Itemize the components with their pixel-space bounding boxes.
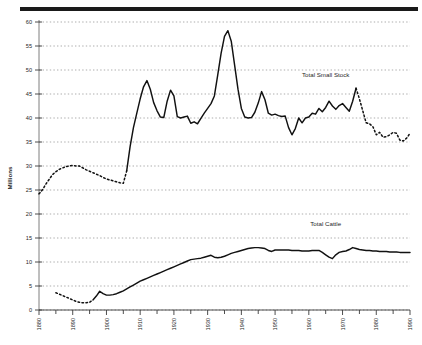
y-tick-label: 25 (26, 187, 32, 193)
x-tick-label: 1900 (104, 318, 110, 330)
y-tick-label: 50 (26, 67, 32, 73)
y-tick-labels: 051015202530354045505560 (26, 19, 32, 313)
series-annotation: Total Small Stock (302, 71, 350, 78)
x-tick-label: 1960 (306, 318, 312, 330)
y-tick-label: 20 (26, 211, 32, 217)
y-tick-label: 10 (26, 259, 32, 265)
series-annotations: Total Small StockTotal Cattle (302, 71, 350, 227)
x-tick-label: 1880 (36, 318, 42, 330)
x-tick-label: 1950 (272, 318, 278, 330)
series-line (93, 248, 410, 300)
line-chart: 051015202530354045505560 188018901900191… (0, 0, 422, 345)
x-tick-label: 1940 (239, 318, 245, 330)
x-tick-label: 1910 (137, 318, 143, 330)
gridlines-group (39, 22, 410, 310)
series-line (356, 88, 410, 141)
y-axis-title: Millions (6, 166, 13, 190)
y-tick-label: 55 (26, 43, 32, 49)
x-tick-label: 1930 (205, 318, 211, 330)
chart-container: 051015202530354045505560 188018901900191… (0, 0, 422, 345)
x-tick-label: 1980 (373, 318, 379, 330)
y-tick-label: 30 (26, 163, 32, 169)
x-tick-label: 1990 (407, 318, 413, 330)
y-tick-label: 0 (29, 307, 32, 313)
series-line (56, 293, 93, 303)
y-tick-label: 60 (26, 19, 32, 25)
x-tick-label: 1970 (340, 318, 346, 330)
y-tick-label: 40 (26, 115, 32, 121)
y-tick-label: 45 (26, 91, 32, 97)
x-tick-label: 1890 (70, 318, 76, 330)
y-tick-marks (35, 22, 42, 310)
y-tick-label: 15 (26, 235, 32, 241)
x-tick-marks (39, 310, 410, 315)
x-tick-labels: 1880189019001910192019301940195019601970… (36, 318, 413, 330)
data-series-group (39, 31, 410, 303)
series-line (127, 31, 356, 171)
x-tick-label: 1920 (171, 318, 177, 330)
series-line (39, 166, 127, 194)
y-tick-label: 5 (29, 283, 32, 289)
series-annotation: Total Cattle (310, 220, 342, 227)
y-tick-label: 35 (26, 139, 32, 145)
